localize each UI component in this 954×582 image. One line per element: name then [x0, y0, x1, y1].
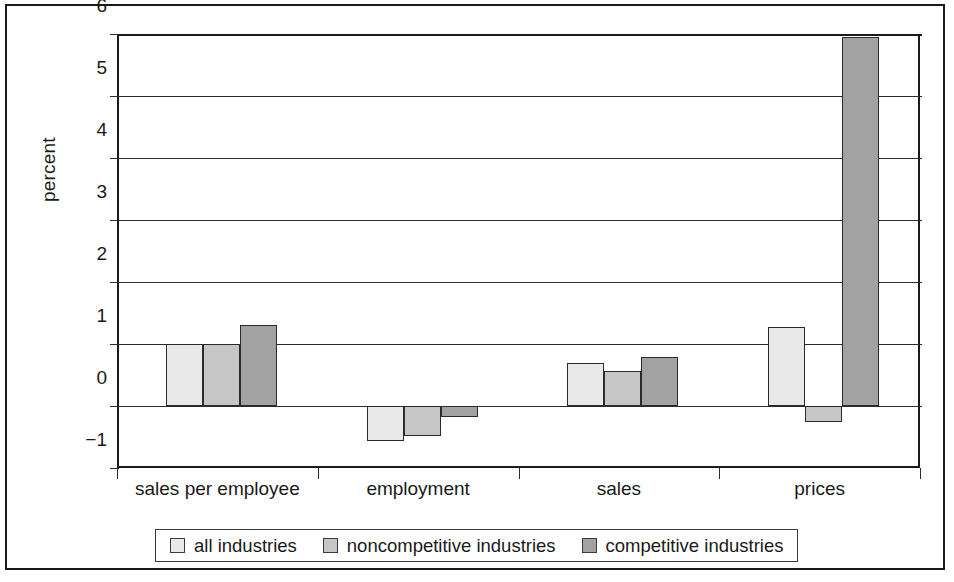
gridline — [119, 220, 922, 221]
y-axis-tick-label: 6 — [67, 0, 107, 15]
legend-item: competitive industries — [582, 535, 784, 557]
y-axis-tick-label: 4 — [67, 120, 107, 139]
legend-swatch-icon — [170, 538, 185, 553]
y-axis-tick — [110, 34, 119, 35]
y-axis-tick-label: 5 — [67, 58, 107, 77]
y-axis-tick-label: 2 — [67, 244, 107, 263]
legend-swatch-icon — [582, 538, 597, 553]
y-axis-tick — [110, 220, 119, 221]
bar — [842, 37, 879, 406]
legend-label: all industries — [194, 535, 297, 557]
y-axis-tick-label: 1 — [67, 306, 107, 325]
y-axis-tick — [110, 158, 119, 159]
x-axis-tick — [920, 468, 921, 479]
gridline — [119, 406, 922, 407]
plot-area — [117, 34, 920, 468]
x-axis-category-label: sales per employee — [135, 478, 300, 500]
y-axis-tick-label: 0 — [67, 368, 107, 387]
y-axis-tick — [110, 96, 119, 97]
x-axis-category-label: prices — [794, 478, 845, 500]
x-axis-tick — [318, 468, 319, 479]
bar — [805, 406, 842, 422]
gridline — [119, 34, 922, 36]
legend-item: noncompetitive industries — [323, 535, 556, 557]
y-axis-tick-label: 3 — [67, 182, 107, 201]
bar — [404, 406, 441, 436]
bar — [203, 344, 240, 406]
bar — [641, 357, 678, 406]
x-axis-tick — [117, 468, 118, 479]
x-axis-category-label: employment — [366, 478, 470, 500]
gridline — [119, 282, 922, 283]
legend-item: all industries — [170, 535, 297, 557]
bar — [604, 371, 641, 406]
legend-label: competitive industries — [606, 535, 784, 557]
x-axis-tick — [519, 468, 520, 479]
x-axis-tick — [719, 468, 720, 479]
bar — [768, 327, 805, 406]
legend-swatch-icon — [323, 538, 338, 553]
gridline — [119, 158, 922, 159]
y-axis-tick-labels: −10123456 — [55, 6, 107, 568]
bar — [166, 344, 203, 406]
y-axis-tick — [110, 344, 119, 345]
x-axis-category-label: sales — [597, 478, 641, 500]
figure-frame: percent −10123456 sales per employeeempl… — [5, 4, 945, 570]
bar — [367, 406, 404, 441]
bar — [441, 406, 478, 417]
y-axis-tick — [110, 406, 119, 407]
y-axis-tick — [110, 282, 119, 283]
y-axis-tick-label: −1 — [67, 430, 107, 449]
gridline — [119, 96, 922, 97]
bar — [240, 325, 277, 406]
legend-label: noncompetitive industries — [347, 535, 556, 557]
chart-legend: all industriesnoncompetitive industriesc… — [155, 529, 798, 562]
bar — [567, 363, 604, 406]
